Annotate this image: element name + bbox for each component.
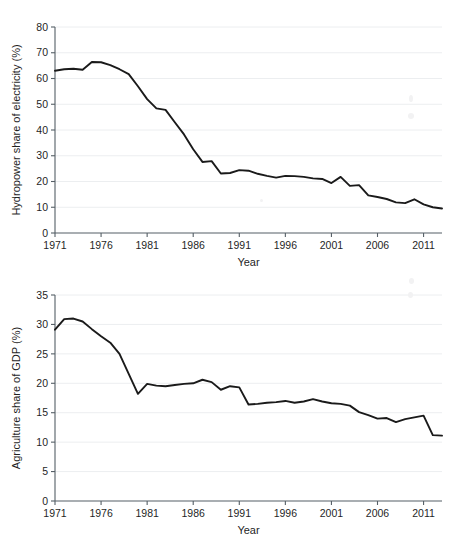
x-tick-label: 1986 <box>182 239 206 251</box>
y-tick-label: 50 <box>36 98 48 110</box>
y-tick-label: 30 <box>36 318 48 330</box>
chart-panel-hydropower: 0102030405060708019711976198119861991199… <box>0 0 453 270</box>
x-tick-label: 2001 <box>320 507 344 519</box>
y-tick-label: 20 <box>36 377 48 389</box>
y-tick-label: 60 <box>36 72 48 84</box>
x-axis-title: Year <box>237 524 260 536</box>
y-tick-label: 0 <box>42 495 48 507</box>
x-tick-label: 2006 <box>366 507 390 519</box>
y-axis-title: Agriculture share of GDP (%) <box>10 327 22 469</box>
x-tick-label: 1981 <box>135 507 159 519</box>
scan-speck <box>408 113 414 119</box>
series-line-0 <box>55 62 442 209</box>
y-tick-label: 20 <box>36 175 48 187</box>
chart-panel-agriculture: 0510152025303519711976198119861991199620… <box>0 270 453 539</box>
x-tick-label: 1986 <box>182 507 206 519</box>
y-tick-label: 35 <box>36 289 48 301</box>
x-tick-label: 1996 <box>274 239 298 251</box>
agriculture-line-chart: 0510152025303519711976198119861991199620… <box>0 270 453 539</box>
scan-speck <box>260 199 263 202</box>
scan-speck <box>408 292 413 298</box>
y-tick-label: 10 <box>36 436 48 448</box>
scan-speck <box>409 95 413 102</box>
hydropower-line-chart: 0102030405060708019711976198119861991199… <box>0 0 453 270</box>
scan-speck <box>409 278 414 284</box>
x-tick-label: 1996 <box>274 507 298 519</box>
x-tick-label: 1971 <box>43 507 67 519</box>
y-tick-label: 5 <box>42 465 48 477</box>
y-axis-title: Hydropower share of electricity (%) <box>10 44 22 215</box>
x-tick-label: 1971 <box>43 239 67 251</box>
y-tick-label: 30 <box>36 149 48 161</box>
x-tick-label: 1981 <box>135 239 159 251</box>
y-tick-label: 40 <box>36 124 48 136</box>
x-axis-title: Year <box>237 256 260 268</box>
y-tick-label: 0 <box>42 227 48 239</box>
x-tick-label: 1991 <box>228 239 252 251</box>
x-tick-label: 1976 <box>89 507 113 519</box>
x-tick-label: 1991 <box>228 507 252 519</box>
x-tick-label: 2011 <box>412 507 435 519</box>
y-tick-label: 10 <box>36 201 48 213</box>
y-tick-label: 25 <box>36 348 48 360</box>
y-tick-label: 70 <box>36 46 48 58</box>
x-tick-label: 2006 <box>366 239 390 251</box>
series-line-1 <box>55 319 442 436</box>
y-tick-label: 15 <box>36 406 48 418</box>
y-tick-label: 80 <box>36 21 48 33</box>
x-tick-label: 1976 <box>89 239 113 251</box>
x-tick-label: 2011 <box>412 239 435 251</box>
x-tick-label: 2001 <box>320 239 344 251</box>
